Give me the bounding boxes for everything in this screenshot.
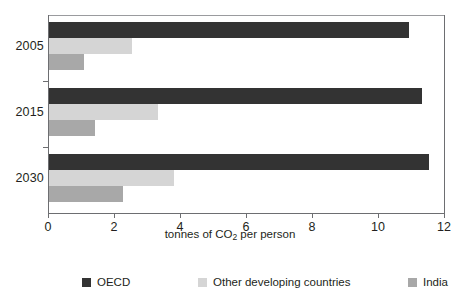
legend-label: India — [423, 276, 448, 288]
bar-group-2015 — [49, 88, 445, 136]
bar-group-2005 — [49, 22, 445, 70]
chart-legend: OECDOther developing countriesIndia — [0, 276, 460, 296]
bar-2005-india — [49, 54, 84, 70]
co2-per-person-bar-chart: 024681012 200520152030 tonnes of CO2 per… — [0, 0, 460, 303]
x-axis-tick-2 — [114, 213, 115, 218]
legend-swatch-icon — [408, 278, 417, 287]
bar-2030-other-developing-countries — [49, 170, 174, 186]
plot-top-border — [48, 15, 445, 16]
x-axis-tick-0 — [48, 213, 49, 218]
x-axis-tick-6 — [246, 213, 247, 218]
x-axis-tick-10 — [378, 213, 379, 218]
legend-item-india[interactable]: India — [408, 276, 448, 288]
bar-2015-india — [49, 120, 95, 136]
x-axis-tick-4 — [180, 213, 181, 218]
x-axis-title: tonnes of CO2 per person — [0, 228, 460, 240]
bar-2005-oecd — [49, 22, 409, 38]
legend-swatch-icon — [82, 278, 91, 287]
legend-item-other-developing-countries[interactable]: Other developing countries — [198, 276, 350, 288]
plot-area: 024681012 — [48, 15, 445, 213]
bar-2015-other-developing-countries — [49, 104, 158, 120]
bar-2030-oecd — [49, 154, 429, 170]
co2-subscript: 2 — [232, 232, 237, 242]
y-axis-label-2005: 2005 — [0, 39, 44, 53]
bar-2015-oecd — [49, 88, 422, 104]
y-axis-label-2030: 2030 — [0, 171, 44, 185]
y-axis-tick — [43, 147, 49, 148]
legend-label: Other developing countries — [213, 276, 350, 288]
legend-swatch-icon — [198, 278, 207, 287]
legend-item-oecd[interactable]: OECD — [82, 276, 130, 288]
bar-2030-india — [49, 186, 123, 202]
bar-group-2030 — [49, 154, 445, 202]
y-axis-tick — [43, 81, 49, 82]
x-axis-tick-8 — [312, 213, 313, 218]
bar-2005-other-developing-countries — [49, 38, 132, 54]
x-axis-tick-12 — [444, 213, 445, 218]
y-axis-label-2015: 2015 — [0, 105, 44, 119]
legend-label: OECD — [97, 276, 130, 288]
